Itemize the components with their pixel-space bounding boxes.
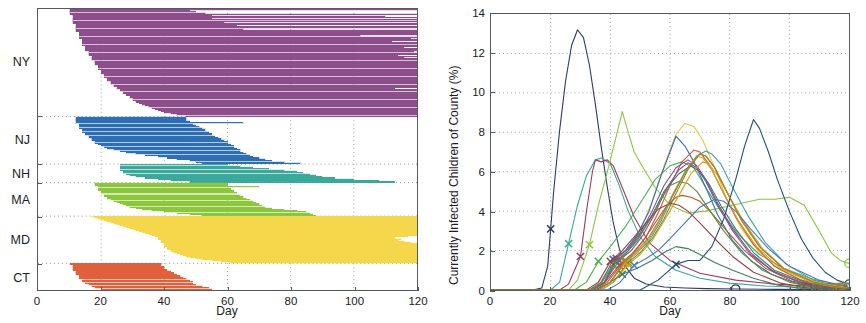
bar-NY (136, 101, 417, 102)
bar-CT (76, 272, 174, 273)
bar-NY (120, 89, 417, 90)
bar-NY (73, 19, 417, 20)
bar-NY (117, 88, 395, 89)
bar-NY (82, 42, 417, 43)
bar-NY (158, 110, 417, 111)
bar-MD (186, 256, 417, 257)
bar-MD (161, 240, 398, 241)
right-xtick (850, 287, 851, 291)
bar-CT (82, 281, 193, 282)
bar-MA (98, 190, 234, 191)
bar-NY (133, 98, 417, 99)
figure-root: 020406080100120NYNJNHMAMDCT Day 02040608… (0, 0, 866, 323)
bar-MD (152, 235, 417, 236)
bar-CT (70, 263, 162, 264)
bar-NY (98, 65, 417, 66)
bar-NJ (158, 156, 253, 157)
bar-NY (92, 56, 417, 57)
left-state-label-ma: MA (0, 193, 30, 207)
left-bar-group-NY (70, 9, 417, 116)
curve-county-13 (491, 166, 849, 290)
bar-MA (177, 213, 310, 214)
bar-NY (89, 55, 399, 56)
bar-NH (130, 175, 316, 176)
bar-MD (183, 255, 417, 256)
bar-MD (202, 259, 417, 260)
bar-MA (152, 210, 297, 211)
bar-NY (79, 35, 360, 36)
right-ytick-label: 6 (460, 166, 485, 178)
bar-NH (126, 174, 309, 175)
bar-NY (95, 61, 417, 62)
bar-NH (190, 181, 395, 182)
left-plot-area (37, 8, 418, 291)
bar-NY (95, 63, 417, 64)
bar-MA (98, 188, 231, 189)
bar-MA (104, 195, 240, 196)
bar-MA (101, 194, 237, 195)
bar-NY (114, 86, 417, 87)
right-xtick-label: 0 (487, 295, 493, 307)
bar-MA (120, 203, 259, 204)
bar-NY (73, 23, 417, 24)
right-ytick (490, 13, 495, 14)
bar-NY (76, 31, 417, 32)
bar-MD (117, 224, 417, 225)
bar-NY (70, 10, 190, 11)
bar-NY (152, 108, 417, 109)
bar-MA (190, 214, 313, 215)
left-xtick (355, 287, 356, 291)
bar-NH (120, 164, 227, 165)
bar-NY (95, 62, 417, 63)
bar-NJ (145, 155, 249, 156)
bar-MA (101, 192, 237, 193)
bar-CT (76, 274, 177, 275)
bar-CT (85, 283, 192, 284)
bar-NY (107, 79, 417, 80)
bar-NY (142, 104, 417, 105)
bar-MA (130, 207, 266, 208)
right-xtick (610, 287, 611, 291)
right-ytick-label: 0 (460, 285, 485, 297)
start-marker-x-county-02 (565, 240, 572, 247)
bar-NY (104, 77, 417, 78)
bar-MD (158, 237, 395, 238)
bar-NY (117, 87, 417, 88)
bar-NJ (76, 119, 187, 120)
bar-MD (120, 225, 417, 226)
bar-NJ (126, 152, 243, 153)
bar-MD (221, 261, 417, 262)
left-plot-svg (38, 9, 417, 290)
bar-CT (79, 275, 180, 276)
bar-NY (92, 57, 405, 58)
right-plot-area (490, 13, 850, 291)
right-ytick-label: 8 (460, 126, 485, 138)
bar-MA (107, 198, 246, 199)
bar-MD (231, 262, 417, 263)
left-bar-group-NH (120, 164, 395, 182)
bar-NH (158, 179, 354, 180)
bar-NY (76, 29, 243, 30)
right-xtick-label: 80 (724, 295, 737, 307)
bar-NJ (202, 163, 300, 164)
right-ytick-label: 2 (460, 245, 485, 257)
bar-NY (85, 48, 417, 49)
bar-NY (101, 72, 417, 73)
bar-NJ (98, 144, 231, 145)
bar-NJ (79, 126, 199, 127)
bar-MD (142, 232, 417, 233)
right-ytick (490, 291, 495, 292)
bar-NY (85, 49, 417, 50)
bar-MD (167, 249, 417, 250)
bar-NH (123, 172, 303, 173)
bar-MD (123, 226, 417, 227)
bar-NJ (85, 133, 211, 134)
bar-NY (98, 66, 417, 67)
bar-CT (73, 269, 168, 270)
left-xtick (228, 287, 229, 291)
bar-MA (95, 183, 228, 184)
right-xtick-label: 40 (604, 295, 617, 307)
bar-CT (73, 266, 165, 267)
bar-MD (158, 239, 401, 240)
bar-MD (139, 231, 417, 232)
